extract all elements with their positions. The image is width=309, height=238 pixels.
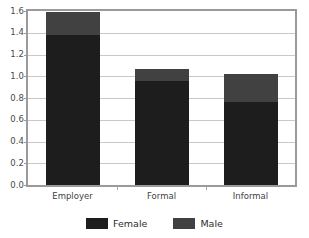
bar-stack[interactable] — [135, 11, 189, 185]
chart-legend: FemaleMale — [0, 215, 309, 231]
y-axis-tick-mark — [24, 120, 27, 121]
legend-item-female[interactable]: Female — [86, 218, 147, 229]
y-axis-tick-label: 0.6 — [0, 115, 24, 124]
x-axis-tick-label: Formal — [147, 191, 176, 202]
y-axis-tick-label: 0.0 — [0, 181, 24, 190]
legend-item-male[interactable]: Male — [173, 218, 223, 229]
y-axis-tick-label: 0.4 — [0, 137, 24, 146]
y-axis-tick-label: 1.4 — [0, 28, 24, 37]
y-axis-tick-mark — [24, 55, 27, 56]
bar-segment-male[interactable] — [46, 12, 100, 35]
bar-segment-female[interactable] — [224, 102, 278, 185]
chart-container: 0.00.20.40.60.81.01.21.41.6 EmployerForm… — [0, 0, 309, 238]
y-axis-tick-mark — [24, 163, 27, 164]
y-axis: 0.00.20.40.60.81.01.21.41.6 — [0, 0, 24, 238]
legend-label: Male — [200, 218, 223, 229]
legend-swatch-female — [86, 218, 108, 229]
y-axis-tick-mark — [24, 33, 27, 34]
x-axis-tick-label: Informal — [233, 191, 268, 202]
x-axis-tick-mark — [206, 187, 207, 190]
y-axis-tick-mark — [24, 76, 27, 77]
y-axis-tick-label: 1.2 — [0, 50, 24, 59]
y-axis-tick-label: 1.0 — [0, 72, 24, 81]
bar-stack[interactable] — [224, 11, 278, 185]
y-axis-tick-label: 0.8 — [0, 94, 24, 103]
bar-segment-female[interactable] — [135, 81, 189, 185]
x-axis-tick-label: Employer — [52, 191, 92, 202]
bar-segment-male[interactable] — [135, 69, 189, 82]
x-axis: EmployerFormalInformal — [26, 191, 297, 205]
plot-area — [28, 11, 295, 185]
y-axis-tick-mark — [24, 11, 27, 12]
bar-segment-male[interactable] — [224, 74, 278, 102]
bar-segment-female[interactable] — [46, 35, 100, 185]
x-axis-tick-mark — [117, 187, 118, 190]
legend-swatch-male — [173, 218, 195, 229]
legend-label: Female — [113, 218, 147, 229]
y-axis-tick-mark — [24, 185, 27, 186]
bar-stack[interactable] — [46, 11, 100, 185]
y-axis-tick-label: 1.6 — [0, 7, 24, 16]
y-axis-tick-mark — [24, 98, 27, 99]
y-axis-tick-label: 0.2 — [0, 159, 24, 168]
y-axis-tick-mark — [24, 142, 27, 143]
